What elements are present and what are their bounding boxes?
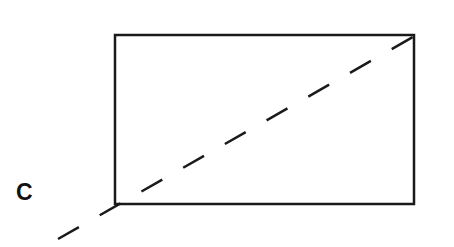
rectangle-shape [115,35,414,204]
diagram-label-c: C [16,181,33,204]
dashed-diagonal-line [58,29,427,239]
diagram-canvas [0,0,454,247]
